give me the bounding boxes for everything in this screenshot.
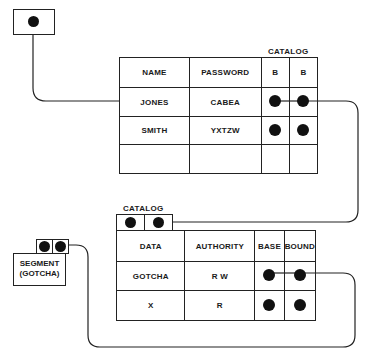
table-row (120, 145, 318, 174)
segment-pointer-cell-1 (36, 239, 53, 254)
pointer-dot-icon (263, 299, 275, 311)
segment-label-line2: (GOTCHA) (14, 269, 65, 279)
cell-base (255, 262, 284, 291)
user-table: NAME PASSWORD B B JONES CABEA SMITH YXTZ… (119, 57, 318, 174)
cell-base (255, 291, 284, 321)
cell-data: GOTCHA (117, 262, 185, 291)
cell-authority: R (185, 291, 255, 321)
cell-b2 (289, 145, 317, 174)
table-row: GOTCHA R W (117, 262, 316, 291)
cell-data: X (117, 291, 185, 321)
cell-authority: R W (185, 262, 255, 291)
pointer-dot-icon (269, 95, 281, 107)
table-row: JONES CABEA (120, 88, 318, 117)
cell-b1 (261, 145, 289, 174)
segment-pointer-cell-2 (52, 239, 69, 254)
header-authority: AUTHORITY (185, 231, 255, 262)
segment-label-line1: SEGMENT (14, 259, 65, 269)
catalog-table-catalog-label: CATALOG (123, 204, 163, 213)
segment-box: SEGMENT (GOTCHA) (13, 253, 66, 286)
header-data: DATA (117, 231, 185, 262)
cell-b1 (261, 88, 289, 117)
pointer-dot-icon (297, 124, 309, 136)
header-bound: BOUND (284, 231, 315, 262)
catalog-table: DATA AUTHORITY BASE BOUND GOTCHA R W X R (116, 230, 316, 321)
cell-password: CABEA (189, 88, 261, 117)
cell-name: SMITH (120, 117, 190, 145)
header-base: BASE (255, 231, 284, 262)
header-b1: B (261, 58, 289, 88)
table-row: SMITH YXTZW (120, 117, 318, 145)
pointer-dot-icon (28, 16, 39, 27)
pointer-dot-icon (263, 269, 275, 281)
user-table-catalog-label: CATALOG (268, 47, 308, 56)
pointer-dot-icon (269, 124, 281, 136)
catalog-table-header-row: DATA AUTHORITY BASE BOUND (117, 231, 316, 262)
cell-bound (284, 262, 315, 291)
cell-b1 (261, 117, 289, 145)
pointer-dot-icon (294, 299, 306, 311)
cell-password: YXTZW (189, 117, 261, 145)
header-password: PASSWORD (189, 58, 261, 88)
cell-password (189, 145, 261, 174)
pointer-dot-icon (125, 217, 136, 228)
pointer-dot-icon (39, 241, 50, 252)
pointer-dot-icon (153, 217, 164, 228)
header-name: NAME (120, 58, 190, 88)
user-table-header-row: NAME PASSWORD B B (120, 58, 318, 88)
root-pointer-box (13, 9, 55, 35)
pointer-dot-icon (55, 241, 66, 252)
cell-b2 (289, 88, 317, 117)
table-row: X R (117, 291, 316, 321)
pointer-dot-icon (297, 95, 309, 107)
cell-b2 (289, 117, 317, 145)
pointer-dot-icon (294, 269, 306, 281)
cell-name: JONES (120, 88, 190, 117)
catalog-pointer-cell-1 (116, 214, 145, 231)
header-b2: B (289, 58, 317, 88)
catalog-pointer-cell-2 (144, 214, 173, 231)
cell-bound (284, 291, 315, 321)
cell-name (120, 145, 190, 174)
